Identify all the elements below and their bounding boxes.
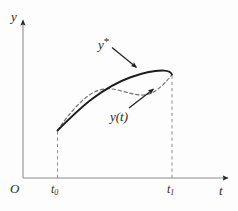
curve-label-ystar: y* <box>98 36 109 51</box>
x-axis-label: t <box>219 184 223 197</box>
origin-label: O <box>10 182 19 195</box>
tick-label-t1: t1 <box>167 183 174 197</box>
y-axis-label: y <box>11 10 17 23</box>
ystar-leader-arrow <box>112 48 137 68</box>
curve-label-yt: y(t) <box>110 110 128 123</box>
yt-leader-arrow <box>129 89 154 108</box>
optimal-control-diagram: y t O t0 t1 y* y(t) <box>0 0 238 211</box>
tick-label-t1-subscript: 1 <box>170 188 174 197</box>
tick-label-t0: t0 <box>51 183 58 197</box>
diagram-canvas <box>0 0 238 211</box>
tick-label-t0-subscript: 0 <box>54 188 58 197</box>
curve-label-ystar-superscript: * <box>104 35 110 47</box>
